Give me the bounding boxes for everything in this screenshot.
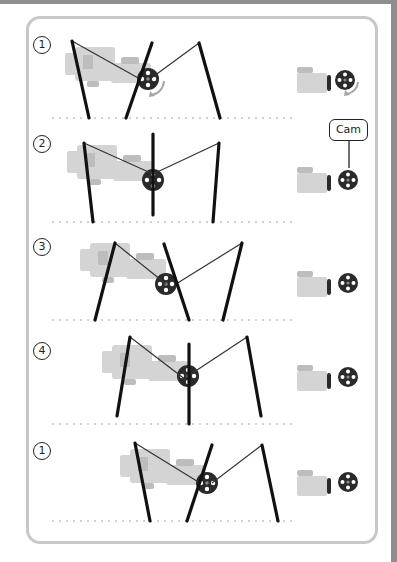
cam-wheel-icon: [335, 70, 355, 90]
cam-wheel-icon: [338, 367, 358, 387]
step-panel-2: [52, 134, 358, 223]
motor-block: [102, 345, 188, 385]
cam-wheel-icon: [338, 273, 358, 293]
string-line: [212, 445, 262, 483]
step-number-badge: 1: [33, 36, 51, 54]
step-panel-3: [52, 243, 358, 321]
step-panel-1: [52, 41, 358, 119]
cam-wheel-icon: [338, 472, 358, 492]
figure-caption: [26, 556, 366, 562]
motor-block: [120, 449, 206, 489]
string-line: [150, 43, 199, 79]
leg: [199, 43, 220, 118]
leg: [223, 243, 242, 320]
step-number-badge: 1: [33, 442, 51, 460]
leg: [213, 143, 219, 222]
step-number-badge: 4: [33, 342, 51, 360]
step-number-badge: 2: [33, 135, 51, 153]
step-number-badge: 3: [33, 238, 51, 256]
side-view-icon: [297, 365, 358, 391]
step-panel-4: [52, 337, 358, 425]
leg: [262, 445, 278, 521]
side-view-icon: [297, 271, 358, 297]
cam-wheel-icon: [338, 170, 358, 190]
string-line: [188, 337, 247, 376]
side-view-icon: [297, 470, 358, 496]
side-view-icon: [297, 67, 358, 96]
mechanism-diagram: [0, 0, 397, 562]
cam-callout-label: Cam: [329, 119, 368, 141]
string-line: [153, 143, 219, 174]
side-view-icon: [297, 167, 358, 193]
step-panel-5: [52, 443, 358, 522]
leg: [247, 337, 261, 416]
motor-block: [67, 145, 153, 185]
